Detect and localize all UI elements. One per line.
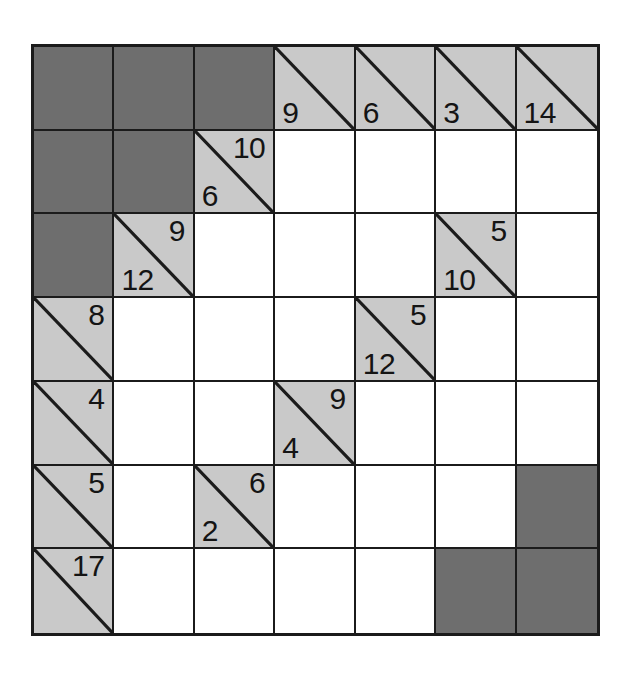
clue-down-value: 4 <box>282 433 298 463</box>
entry-value[interactable] <box>436 382 514 464</box>
entry-value[interactable] <box>195 298 273 380</box>
entry-cell[interactable] <box>114 549 194 633</box>
entry-value[interactable] <box>356 214 434 296</box>
clue-right-value: 17 <box>72 551 104 581</box>
entry-value[interactable] <box>275 298 353 380</box>
entry-value[interactable] <box>114 549 192 633</box>
clue-right-value: 5 <box>410 300 426 330</box>
clue-cell: 17 <box>34 549 114 633</box>
entry-cell[interactable] <box>195 549 275 633</box>
entry-cell[interactable] <box>114 382 194 466</box>
clue-cell: 610 <box>195 131 275 215</box>
clue-down-value: 12 <box>121 265 153 295</box>
clue-right-value: 4 <box>88 384 104 414</box>
clue-cell: 125 <box>356 298 436 382</box>
entry-cell[interactable] <box>356 131 436 215</box>
entry-value[interactable] <box>436 466 514 548</box>
clue-cell: 9 <box>275 47 355 131</box>
block-cell <box>114 131 194 215</box>
block-cell <box>34 131 114 215</box>
entry-cell[interactable] <box>195 298 275 382</box>
clue-cell: 105 <box>436 214 516 298</box>
entry-cell[interactable] <box>517 382 597 466</box>
clue-down-value: 9 <box>282 98 298 128</box>
entry-value[interactable] <box>356 466 434 548</box>
entry-cell[interactable] <box>517 131 597 215</box>
block-cell <box>517 549 597 633</box>
entry-value[interactable] <box>517 131 597 213</box>
entry-value[interactable] <box>275 549 353 633</box>
clue-right-value: 8 <box>88 300 104 330</box>
clue-cell: 4 <box>34 382 114 466</box>
entry-cell[interactable] <box>114 298 194 382</box>
entry-cell[interactable] <box>356 466 436 550</box>
entry-value[interactable] <box>517 214 597 296</box>
clue-cell: 3 <box>436 47 516 131</box>
clue-cell: 8 <box>34 298 114 382</box>
entry-value[interactable] <box>114 466 192 548</box>
entry-cell[interactable] <box>436 131 516 215</box>
entry-cell[interactable] <box>517 298 597 382</box>
entry-value[interactable] <box>436 131 514 213</box>
entry-value[interactable] <box>436 298 514 380</box>
entry-cell[interactable] <box>114 466 194 550</box>
entry-cell[interactable] <box>275 466 355 550</box>
entry-cell[interactable] <box>356 214 436 298</box>
entry-value[interactable] <box>356 382 434 464</box>
entry-value[interactable] <box>517 298 597 380</box>
clue-cell: 14 <box>517 47 597 131</box>
block-cell <box>436 549 516 633</box>
entry-value[interactable] <box>275 131 353 213</box>
entry-value[interactable] <box>356 131 434 213</box>
entry-value[interactable] <box>517 382 597 464</box>
entry-value[interactable] <box>114 382 192 464</box>
entry-value[interactable] <box>275 214 353 296</box>
entry-value[interactable] <box>195 549 273 633</box>
entry-cell[interactable] <box>195 382 275 466</box>
clue-down-value: 6 <box>202 181 218 211</box>
entry-value[interactable] <box>195 214 273 296</box>
entry-cell[interactable] <box>275 214 355 298</box>
entry-cell[interactable] <box>436 382 516 466</box>
clue-cell: 129 <box>114 214 194 298</box>
clue-down-value: 6 <box>363 98 379 128</box>
clue-right-value: 9 <box>330 384 346 414</box>
entry-value[interactable] <box>195 382 273 464</box>
kakuro-puzzle: 96314610129105812544952617 <box>0 0 636 680</box>
clue-cell: 26 <box>195 466 275 550</box>
clue-cell: 5 <box>34 466 114 550</box>
entry-cell[interactable] <box>356 382 436 466</box>
clue-down-value: 2 <box>202 516 218 546</box>
clue-down-value: 12 <box>363 349 395 379</box>
clue-right-value: 10 <box>233 133 265 163</box>
entry-cell[interactable] <box>436 466 516 550</box>
entry-cell[interactable] <box>275 549 355 633</box>
clue-right-value: 5 <box>490 216 506 246</box>
clue-right-value: 5 <box>88 468 104 498</box>
entry-value[interactable] <box>275 466 353 548</box>
clue-down-value: 10 <box>443 265 475 295</box>
block-cell <box>517 466 597 550</box>
kakuro-grid: 96314610129105812544952617 <box>31 44 600 636</box>
entry-cell[interactable] <box>275 131 355 215</box>
entry-cell[interactable] <box>275 298 355 382</box>
entry-cell[interactable] <box>517 214 597 298</box>
clue-down-value: 3 <box>443 98 459 128</box>
entry-value[interactable] <box>114 298 192 380</box>
clue-cell: 49 <box>275 382 355 466</box>
block-cell <box>34 214 114 298</box>
clue-right-value: 9 <box>169 216 185 246</box>
entry-cell[interactable] <box>356 549 436 633</box>
entry-cell[interactable] <box>436 298 516 382</box>
entry-value[interactable] <box>356 549 434 633</box>
block-cell <box>195 47 275 131</box>
clue-down-value: 14 <box>524 98 556 128</box>
block-cell <box>114 47 194 131</box>
block-cell <box>34 47 114 131</box>
clue-right-value: 6 <box>249 468 265 498</box>
entry-cell[interactable] <box>195 214 275 298</box>
clue-cell: 6 <box>356 47 436 131</box>
